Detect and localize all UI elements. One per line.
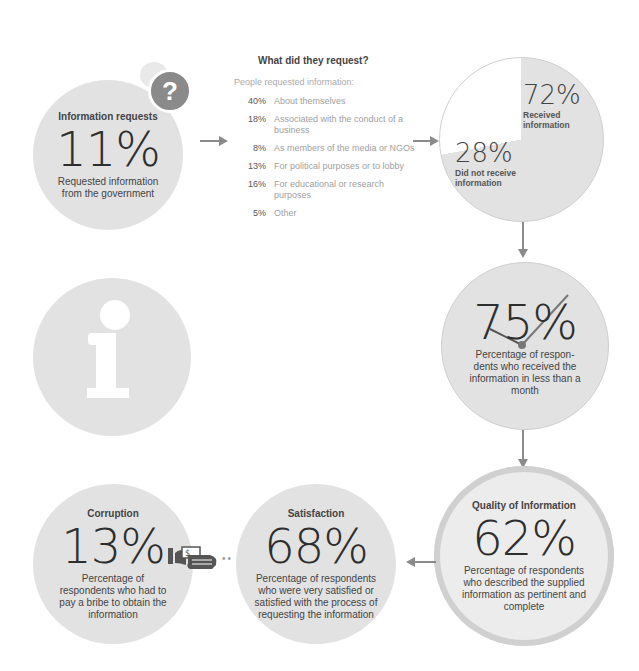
satisfaction-value: 68% [264,519,368,573]
not-received-segment-label: 28% Did not receive information [455,138,519,188]
satisfaction-title: Satisfaction [288,508,345,519]
request-pct: 40% [234,96,274,107]
request-label: For educational or research purposes [274,179,394,201]
connector-dots: •• [222,553,233,564]
received-label: Received information [523,110,583,130]
info-requests-description: Requested information from the governmen… [48,176,168,200]
request-label: As members of the media or NGOs [274,143,415,154]
arrow-left-line [414,561,436,563]
request-pct: 8% [234,143,274,154]
not-received-value: 28% [455,138,519,168]
list-item: 13% For political purposes or to lobby [234,161,434,172]
info-requests-title: Information requests [58,111,157,122]
request-pct: 13% [234,161,274,172]
bribe-money-hand-icon: $ [168,545,220,571]
request-label: Associated with the conduct of a busines… [274,114,404,136]
satisfaction-description: Percentage of respondents who were very … [251,573,381,621]
list-item: 5% Other [234,208,434,219]
info-icon [100,300,130,330]
request-label: For political purposes or to lobby [274,161,404,172]
arrow-down-head-icon [518,249,528,258]
arrow-right-head-icon [430,136,439,146]
request-pct: 18% [234,114,274,136]
requests-title: What did they request? [258,55,369,66]
corruption-value: 13% [61,519,165,573]
quality-circle: Quality of Information 62% Percentage of… [440,472,608,640]
request-label: About themselves [274,96,346,107]
arrow-down-line [522,222,524,250]
quality-title: Quality of Information [472,500,576,511]
received-value: 72% [523,80,583,110]
list-item: 18% Associated with the conduct of a bus… [234,114,434,136]
satisfaction-circle: Satisfaction 68% Percentage of responden… [236,484,396,644]
received-segment-label: 72% Received information [523,80,583,130]
info-requests-value: 11% [56,122,160,176]
timeliness-circle: 75% Percentage of respon-dents who recei… [441,262,609,430]
request-label: Other [274,208,297,219]
timeliness-description: Percentage of respon-dents who received … [466,349,584,397]
list-item: 40% About themselves [234,96,434,107]
arrow-down-line [522,430,524,460]
list-item: 8% As members of the media or NGOs [234,143,434,154]
question-bubble-icon: ? [148,69,192,113]
quality-value: 62% [472,511,576,565]
not-received-label: Did not receive information [455,168,519,188]
arrow-right-line [200,140,220,142]
corruption-description: Percentage of respondents who had to pay… [57,573,169,621]
requests-intro: People requested information: [234,77,354,87]
timeliness-value: 75% [473,295,577,349]
request-pct: 5% [234,208,274,219]
arrow-left-head-icon [406,557,415,567]
requests-list: 40% About themselves 18% Associated with… [234,96,434,226]
list-item: 16% For educational or research purposes [234,179,434,201]
arrow-right-line [413,140,431,142]
quality-description: Percentage of respondents who described … [459,565,589,613]
info-icon-base [87,388,129,398]
arrow-right-head-icon [219,136,228,146]
corruption-title: Corruption [87,508,139,519]
request-pct: 16% [234,179,274,201]
